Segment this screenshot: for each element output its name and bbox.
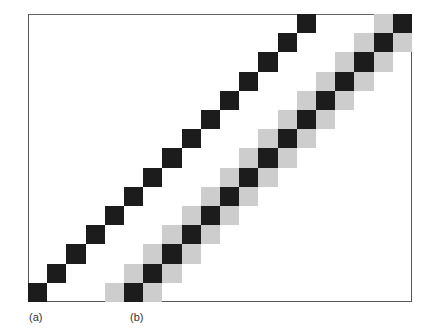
line-b-pixel <box>374 33 393 52</box>
line-b-gray-pixel <box>297 91 316 110</box>
line-b-gray-pixel <box>162 264 181 283</box>
line-b-gray-pixel <box>239 187 258 206</box>
line-b-pixel <box>335 72 354 91</box>
line-b-pixel <box>162 244 181 263</box>
line-a-pixel <box>201 110 220 129</box>
line-a-pixel <box>105 206 124 225</box>
line-b-gray-pixel <box>335 52 354 71</box>
line-b-gray-pixel <box>220 168 239 187</box>
line-b-pixel <box>201 206 220 225</box>
line-b-gray-pixel <box>335 91 354 110</box>
line-b-pixel <box>297 110 316 129</box>
line-b-gray-pixel <box>105 283 124 302</box>
line-b-gray-pixel <box>316 72 335 91</box>
line-b-gray-pixel <box>354 72 373 91</box>
line-b-pixel <box>182 225 201 244</box>
line-b-gray-pixel <box>182 244 201 263</box>
line-b-pixel <box>239 168 258 187</box>
line-b-gray-pixel <box>220 206 239 225</box>
line-b-gray-pixel <box>143 283 162 302</box>
line-a-pixel <box>239 72 258 91</box>
label-b: (b) <box>130 311 143 323</box>
line-b-gray-pixel <box>316 110 335 129</box>
line-b-pixel <box>354 52 373 71</box>
line-a-pixel <box>278 33 297 52</box>
line-b-gray-pixel <box>239 148 258 167</box>
line-b-gray-pixel <box>201 225 220 244</box>
line-b-gray-pixel <box>393 33 412 52</box>
line-b-gray-pixel <box>374 14 393 33</box>
line-a-pixel <box>297 14 316 33</box>
line-a-pixel <box>258 52 277 71</box>
line-a-pixel <box>182 129 201 148</box>
line-a-pixel <box>66 244 85 263</box>
label-a: (a) <box>29 311 42 323</box>
line-a-pixel <box>47 264 66 283</box>
line-b-pixel <box>143 264 162 283</box>
line-b-pixel <box>220 187 239 206</box>
line-b-gray-pixel <box>124 264 143 283</box>
line-b-gray-pixel <box>278 148 297 167</box>
line-b-gray-pixel <box>374 52 393 71</box>
line-b-gray-pixel <box>278 110 297 129</box>
figure-canvas: (a) (b) <box>0 0 436 336</box>
line-b-pixel <box>258 148 277 167</box>
line-a-pixel <box>86 225 105 244</box>
line-b-gray-pixel <box>354 33 373 52</box>
line-b-gray-pixel <box>201 187 220 206</box>
line-b-gray-pixel <box>297 129 316 148</box>
line-b-gray-pixel <box>182 206 201 225</box>
line-b-pixel <box>316 91 335 110</box>
line-b-pixel <box>278 129 297 148</box>
line-a-pixel <box>162 148 181 167</box>
line-a-pixel <box>220 91 239 110</box>
line-b-gray-pixel <box>162 225 181 244</box>
line-b-gray-pixel <box>143 244 162 263</box>
line-b-gray-pixel <box>258 168 277 187</box>
line-b-pixel <box>124 283 143 302</box>
line-a-pixel <box>28 283 47 302</box>
line-b-pixel <box>393 14 412 33</box>
line-a-pixel <box>124 187 143 206</box>
line-b-gray-pixel <box>258 129 277 148</box>
line-a-pixel <box>143 168 162 187</box>
